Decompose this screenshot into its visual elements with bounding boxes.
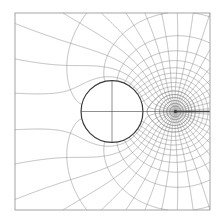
flow-net-curve <box>175 112 178 210</box>
flow-net-curve <box>104 142 168 210</box>
flow-net-curve <box>145 112 175 210</box>
flow-net-curve <box>67 13 87 104</box>
flow-net-diagram <box>0 0 222 223</box>
flow-net-curve <box>175 13 178 111</box>
flow-net-curve <box>176 112 194 210</box>
flow-net-curve <box>67 119 87 210</box>
flow-net-curve <box>125 140 210 172</box>
flow-net-curve <box>176 112 210 209</box>
flow-net-curve <box>193 206 210 210</box>
flow-net-curve <box>176 14 210 111</box>
flow-net-curve <box>145 13 175 111</box>
source-point <box>174 110 177 113</box>
flow-net-curve <box>193 13 210 17</box>
flow-net-curve <box>176 13 194 111</box>
flow-net-curve <box>104 13 168 81</box>
flow-net-curve <box>176 68 210 111</box>
